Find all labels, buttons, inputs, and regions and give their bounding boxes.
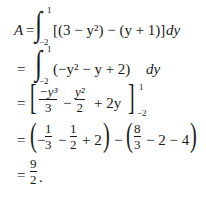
line-2: = ∫ 1 −2 (−y² − y + 2) dy [0, 45, 206, 81]
equals-sign: = [17, 62, 25, 77]
integrand: [(3 − y²) − (y + 1)] [53, 23, 165, 38]
minus-sign: − [63, 96, 71, 111]
fraction-one-half: 1 2 [70, 122, 77, 151]
plus-two: + 2 [82, 133, 102, 148]
plus-two-y: + 2y [94, 96, 121, 111]
equals-sign: = [17, 96, 25, 111]
close-paren: ) [190, 118, 197, 152]
upper-limit: 1 [47, 6, 52, 15]
area-symbol: A [14, 23, 23, 38]
upper-limit: 1 [47, 45, 52, 54]
lower-limit: −2 [137, 109, 147, 118]
open-bracket: [ [30, 79, 37, 115]
differential: dy [146, 62, 160, 77]
line-5: = 9 2 . [0, 158, 206, 194]
line-4: = ( − 1 3 − 1 2 + 2 ) − ( 8 3 − 2 − 4 ) [0, 120, 206, 156]
minus-two-minus-four: − 2 − 4 [146, 133, 189, 148]
line-3: = [ −y³ 3 − y² 2 + 2y ] 1 −2 [0, 83, 206, 119]
fraction-neg-y-cubed-over-3: −y³ 3 [39, 85, 57, 114]
differential: dy [166, 23, 180, 38]
integral-sign: ∫ [35, 7, 42, 41]
period: . [39, 170, 43, 185]
equals-sign: = [26, 23, 34, 38]
fraction-y-squared-over-2: y² 2 [75, 85, 85, 114]
line-1: A = ∫ 1 −2 [(3 − y²) − (y + 1)] dy [0, 5, 206, 41]
integrand: (−y² − y + 2) [53, 62, 130, 77]
open-paren: ( [126, 118, 133, 152]
integral-sign: ∫ [35, 46, 42, 80]
equals-sign: = [17, 168, 25, 183]
fraction-eight-thirds: 8 3 [134, 122, 141, 151]
minus-sign: − [58, 133, 66, 148]
upper-limit: 1 [139, 83, 144, 92]
fraction-one-third: 1 3 [45, 122, 52, 151]
fraction-nine-halves: 9 2 [30, 157, 37, 186]
close-paren: ) [103, 118, 110, 152]
equals-sign: = [17, 133, 25, 148]
minus-sign: − [114, 133, 122, 148]
open-paren: ( [30, 118, 37, 152]
close-bracket: ] [128, 79, 135, 115]
